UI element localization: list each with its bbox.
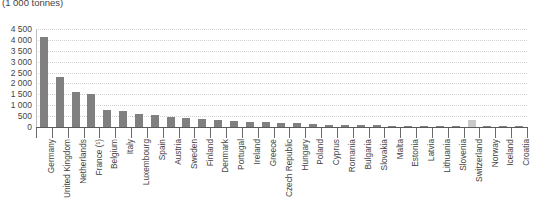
bar <box>293 123 301 127</box>
bar <box>483 126 491 127</box>
bar <box>468 120 476 127</box>
y-axis-tick-labels: 05001 0001 5002 0002 5003 0003 5004 0004… <box>0 29 32 127</box>
x-axis-ticks <box>36 128 527 138</box>
bar <box>119 111 127 127</box>
bar <box>277 123 285 127</box>
bar-slot <box>432 29 448 127</box>
x-axis-tick-label: Finland <box>206 139 214 166</box>
x-axis-tick <box>179 128 180 138</box>
bar-slot <box>289 29 305 127</box>
bar <box>325 125 333 128</box>
bar <box>103 110 111 127</box>
x-axis-tick-label: Ireland <box>253 139 261 164</box>
x-axis-tick <box>163 128 164 138</box>
x-axis-tick-label: Bulgaria <box>364 139 372 169</box>
y-axis-tick-label: 500 <box>18 112 32 121</box>
x-axis-tick <box>131 128 132 138</box>
bar-slot <box>479 29 495 127</box>
bar <box>214 120 222 127</box>
x-axis-tick-label: Portugal <box>237 139 245 170</box>
x-axis-tick-label: Spain <box>158 139 166 160</box>
bar-slot <box>52 29 68 127</box>
x-axis-tick-label: Cyprus <box>332 139 340 165</box>
x-axis-tick <box>210 128 211 138</box>
bar-slot <box>384 29 400 127</box>
bar <box>436 126 444 127</box>
x-axis-tick-label: Germany <box>47 139 55 173</box>
x-axis-tick-label: France (¹) <box>95 139 103 175</box>
x-axis-tick-label: Belgium <box>110 139 118 169</box>
bar-slot <box>68 29 84 127</box>
bar-slot <box>115 29 131 127</box>
bar-slot <box>511 29 527 127</box>
chart-screenshot: (1 000 tonnes) 05001 0001 5002 0002 5003… <box>0 0 535 206</box>
x-axis-tick <box>432 128 433 138</box>
y-axis-tick-label: 3 000 <box>11 58 32 67</box>
bar <box>388 126 396 127</box>
x-axis-tick <box>464 128 465 138</box>
bar-slot <box>131 29 147 127</box>
bar-slot <box>226 29 242 127</box>
y-axis-tick-label: 1 500 <box>11 90 32 99</box>
x-axis-tick <box>527 128 528 138</box>
x-axis-tick <box>353 128 354 138</box>
bar-slot <box>194 29 210 127</box>
x-axis-tick-label: Croatia <box>522 139 530 166</box>
bar-slot <box>179 29 195 127</box>
x-axis-tick-label: Denmark <box>221 139 229 173</box>
x-axis-tick-label: Romania <box>348 139 356 172</box>
x-axis-tick <box>305 128 306 138</box>
bar <box>499 126 507 127</box>
bar <box>341 125 349 127</box>
y-axis-tick-label: 2 000 <box>11 79 32 88</box>
x-axis-tick-label: Sweden <box>190 139 198 169</box>
x-axis-tick <box>416 128 417 138</box>
bar <box>198 119 206 127</box>
x-axis-tick <box>337 128 338 138</box>
x-axis-tick <box>147 128 148 138</box>
y-axis-tick-label: 4 500 <box>11 25 32 34</box>
bar <box>373 125 381 127</box>
bar <box>40 37 48 127</box>
chart-title: (1 000 tonnes) <box>2 0 63 8</box>
x-axis-tick <box>194 128 195 138</box>
bar-slot <box>163 29 179 127</box>
bar <box>56 77 64 127</box>
bar-slot <box>337 29 353 127</box>
x-axis-tick <box>369 128 370 138</box>
x-axis-tick <box>495 128 496 138</box>
y-axis-tick-label: 2 500 <box>11 69 32 78</box>
x-axis-tick-label: Switzerland <box>475 139 483 182</box>
x-axis-tick-labels: GermanyUnited KingdomNetherlandsFrance (… <box>36 139 527 206</box>
y-axis-tick-label: 4 000 <box>11 36 32 45</box>
x-axis-tick-label: Greece <box>269 139 277 166</box>
x-axis-tick-label: Italy <box>126 139 134 154</box>
x-axis-tick-label: Hungary <box>301 139 309 170</box>
x-axis-tick <box>52 128 53 138</box>
x-axis-tick-label: Austria <box>174 139 182 165</box>
bar-slot <box>495 29 511 127</box>
bar <box>262 122 270 127</box>
x-axis-tick <box>384 128 385 138</box>
x-axis-tick-label: United Kingdom <box>63 139 71 198</box>
x-axis-tick <box>274 128 275 138</box>
x-axis-tick <box>511 128 512 138</box>
x-axis-tick-label: Malta <box>396 139 404 159</box>
x-axis-tick-label: Czech Republic <box>285 139 293 197</box>
x-axis-tick-label: Netherlands <box>79 139 87 184</box>
bar-slot <box>400 29 416 127</box>
y-axis-tick-label: 3 500 <box>11 47 32 56</box>
x-axis-tick <box>68 128 69 138</box>
y-axis-tick-label: 0 <box>27 123 32 132</box>
bar-slot <box>448 29 464 127</box>
bar <box>404 126 412 127</box>
bar-slot <box>242 29 258 127</box>
x-axis-tick <box>479 128 480 138</box>
bar-slot <box>321 29 337 127</box>
bar-slot <box>353 29 369 127</box>
bar <box>182 118 190 127</box>
x-axis-tick <box>321 128 322 138</box>
bar-slot <box>416 29 432 127</box>
bar-slot <box>305 29 321 127</box>
bar-slot <box>369 29 385 127</box>
